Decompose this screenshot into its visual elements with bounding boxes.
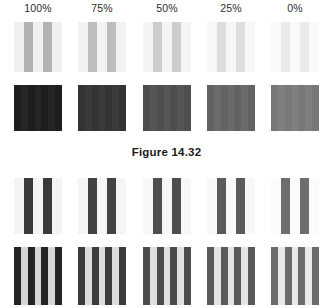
- stripe: [43, 22, 53, 72]
- column-label-75: 75%: [69, 2, 135, 14]
- stripe: [177, 85, 184, 131]
- swatch-r3-25: [207, 178, 255, 234]
- stripe: [292, 85, 299, 131]
- stripe: [48, 85, 55, 131]
- swatch-r2-50: [143, 85, 191, 131]
- swatch-r2-100: [14, 85, 62, 131]
- swatch-r4-100: [14, 247, 62, 305]
- swatch-r1-75: [78, 22, 126, 72]
- swatch-r2-25: [207, 85, 255, 131]
- figure-caption: Figure 14.32: [0, 146, 333, 158]
- stripe: [278, 247, 285, 305]
- stripe: [281, 22, 291, 72]
- stripe: [236, 22, 246, 72]
- stripe: [228, 247, 235, 305]
- stripe: [177, 247, 184, 305]
- stripe: [217, 22, 227, 72]
- stripe: [172, 22, 182, 72]
- stripe: [292, 247, 299, 305]
- stripe: [107, 22, 117, 72]
- stripe: [21, 247, 28, 305]
- stripe: [99, 247, 106, 305]
- stripe: [35, 85, 42, 131]
- stripe: [236, 178, 246, 234]
- swatch-r2-75: [78, 85, 126, 131]
- stripe: [85, 247, 92, 305]
- swatch-r1-100: [14, 22, 62, 72]
- column-label-50: 50%: [134, 2, 200, 14]
- stripe: [99, 85, 106, 131]
- stripe: [35, 247, 42, 305]
- stripe: [107, 178, 117, 234]
- stripe: [164, 85, 171, 131]
- column-label-100: 100%: [5, 2, 71, 14]
- stripe: [88, 22, 98, 72]
- swatch-r2-0: [271, 85, 319, 131]
- stripe: [24, 22, 34, 72]
- stripe: [24, 178, 34, 234]
- swatch-row-2: [0, 85, 333, 131]
- stripe: [164, 247, 171, 305]
- swatch-r3-100: [14, 178, 62, 234]
- stripe: [281, 178, 291, 234]
- swatch-row-4: [0, 247, 333, 305]
- stripe: [214, 247, 221, 305]
- stripe: [153, 22, 163, 72]
- stripe: [112, 247, 119, 305]
- stripe: [217, 178, 227, 234]
- column-label-25: 25%: [198, 2, 264, 14]
- swatch-r1-25: [207, 22, 255, 72]
- swatch-row-1: [0, 22, 333, 72]
- swatch-r1-50: [143, 22, 191, 72]
- stripe: [48, 247, 55, 305]
- swatch-r4-0: [271, 247, 319, 305]
- swatch-row-3: [0, 178, 333, 234]
- stripe: [112, 85, 119, 131]
- stripe: [300, 178, 310, 234]
- stripe: [153, 178, 163, 234]
- stripe: [172, 178, 182, 234]
- column-label-row: 100%75%50%25%0%: [0, 0, 333, 20]
- figure-14-32: 100%75%50%25%0% Figure 14.32: [0, 0, 333, 308]
- swatch-r3-0: [271, 178, 319, 234]
- stripe: [150, 85, 157, 131]
- stripe: [300, 22, 310, 72]
- swatch-r3-75: [78, 178, 126, 234]
- stripe: [85, 85, 92, 131]
- stripe: [305, 85, 312, 131]
- swatch-r3-50: [143, 178, 191, 234]
- stripe: [88, 178, 98, 234]
- stripe: [228, 85, 235, 131]
- stripe: [305, 247, 312, 305]
- stripe: [241, 85, 248, 131]
- stripe: [43, 178, 53, 234]
- stripe: [150, 247, 157, 305]
- swatch-r4-25: [207, 247, 255, 305]
- swatch-r4-50: [143, 247, 191, 305]
- stripe: [214, 85, 221, 131]
- stripe: [241, 247, 248, 305]
- stripe: [21, 85, 28, 131]
- column-label-0: 0%: [262, 2, 328, 14]
- swatch-r1-0: [271, 22, 319, 72]
- stripe: [278, 85, 285, 131]
- swatch-r4-75: [78, 247, 126, 305]
